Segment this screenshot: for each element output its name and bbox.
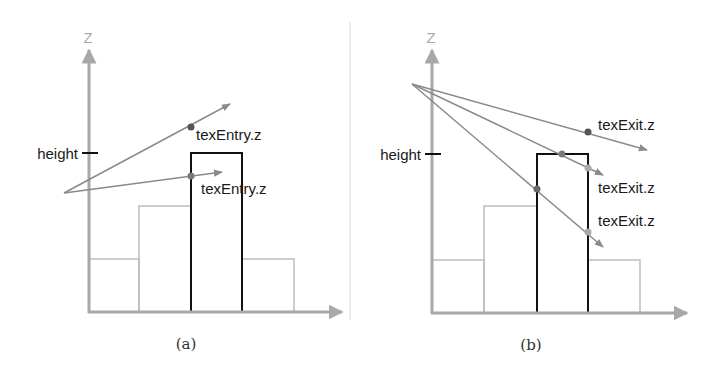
bar-2 bbox=[139, 206, 191, 312]
caption-b: (b) bbox=[520, 336, 541, 354]
bar-4 bbox=[242, 259, 294, 312]
entry-point-2 bbox=[188, 173, 195, 180]
highlighted-bar bbox=[191, 153, 242, 312]
bar-2 bbox=[484, 206, 537, 313]
bar-side-intersection bbox=[534, 186, 541, 193]
exit-point-1 bbox=[585, 129, 592, 136]
bar-1 bbox=[432, 260, 484, 313]
entry-point-1 bbox=[188, 124, 195, 131]
caption-a: (a) bbox=[176, 335, 197, 353]
tex-entry-label-2: texEntry.z bbox=[201, 180, 267, 197]
z-axis-label: Z bbox=[83, 29, 92, 46]
tex-entry-label-1: texEntry.z bbox=[196, 126, 262, 143]
highlighted-bar bbox=[537, 154, 588, 313]
exit-point-2 bbox=[585, 165, 592, 172]
bar-4 bbox=[588, 260, 640, 313]
exit-point-3 bbox=[585, 229, 592, 236]
bar-1 bbox=[89, 259, 139, 312]
panel-a: Z height texEntry.z texEntry.z (a) bbox=[37, 29, 342, 353]
z-axis-label: Z bbox=[426, 29, 435, 46]
height-label: height bbox=[37, 145, 79, 162]
tex-exit-label-1: texExit.z bbox=[598, 116, 655, 133]
ray-3 bbox=[412, 84, 603, 247]
bar-top-intersection bbox=[559, 151, 566, 158]
height-label: height bbox=[380, 146, 422, 163]
diagram-canvas: Z height texEntry.z texEntry.z (a) Z hei… bbox=[0, 0, 708, 375]
panel-b: Z height texExit.z texExit.z texExit.z (… bbox=[380, 29, 687, 354]
tex-exit-label-2: texExit.z bbox=[598, 179, 655, 196]
tex-exit-label-3: texExit.z bbox=[598, 212, 655, 229]
